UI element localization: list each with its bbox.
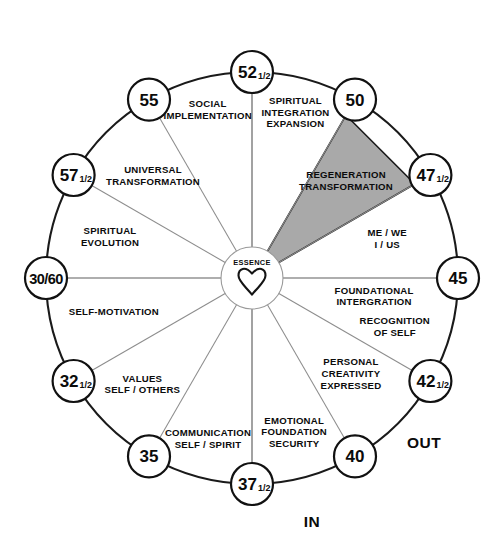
sector-label-line: EMOTIONAL <box>264 415 324 426</box>
sector-label-line: EVOLUTION <box>81 237 139 248</box>
sector-label-line: OF SELF <box>374 327 416 338</box>
sector-label-line: TRANSFORMATION <box>106 176 200 187</box>
node-number: 35 <box>140 447 159 466</box>
wheel-node-n45[interactable]: 45 <box>437 257 479 299</box>
sector-label-line: SECURITY <box>269 438 320 449</box>
spoke-line-n57h <box>88 184 226 264</box>
wheel-node-n37h[interactable]: 371/2 <box>231 463 273 505</box>
sector-label-s-foundational-integration: FOUNDATIONALINTERGRATION <box>335 285 414 308</box>
wheel-node-n35[interactable]: 35 <box>128 435 170 477</box>
wheel-node-n3060[interactable]: 30/60 <box>25 257 67 299</box>
sector-label-s-regeneration: REGENERATIONTRANSFORMATION <box>299 169 393 192</box>
sector-label-s-communication: COMMUNICATIONSELF / SPIRIT <box>165 427 251 450</box>
sector-label-line: FOUNDATIONAL <box>335 285 414 296</box>
wheel-node-n50[interactable]: 50 <box>334 79 376 121</box>
hub-circle[interactable] <box>221 247 283 309</box>
sector-label-line: CREATIVITY <box>322 368 381 379</box>
sector-label-s-spiritual-integration: SPIRITUALINTEGRATIONEXPANSION <box>261 95 329 129</box>
hub-label: ESSENCE <box>233 258 270 267</box>
spoke-line-n32h <box>88 293 226 373</box>
node-number: 40 <box>346 447 365 466</box>
sector-label-s-spiritual-evolution: SPIRITUALEVOLUTION <box>81 225 139 248</box>
wheel-canvas: ESSENCE REGENERATIONTRANSFORMATIONSPIRIT… <box>0 0 502 554</box>
node-number: 45 <box>449 269 468 288</box>
sector-label-line: REGENERATION <box>306 169 386 180</box>
sector-label-s-emotional-foundation: EMOTIONALFOUNDATIONSECURITY <box>261 415 327 449</box>
node-number: 55 <box>140 91 159 110</box>
sector-label-s-social-implementation: SOCIALIMPLEMENTATION <box>164 98 252 121</box>
wheel-node-n32h[interactable]: 321/2 <box>53 360 95 402</box>
node-fraction: 1/2 <box>436 174 449 184</box>
node-number: 32 <box>60 372 79 391</box>
sector-label-s-personal-creativity: PERSONALCREATIVITYEXPRESSED <box>321 356 382 390</box>
sector-label-line: RECOGNITION <box>360 315 430 326</box>
sector-label-line: INTERGRATION <box>336 296 411 307</box>
node-fraction: 1/2 <box>258 483 271 493</box>
node-number: 42 <box>416 372 435 391</box>
wheel-node-n55[interactable]: 55 <box>128 79 170 121</box>
sector-label-s-recognition-of-self: RECOGNITIONOF SELF <box>360 315 430 338</box>
node-number: 57 <box>60 166 79 185</box>
sector-label-s-me-we: ME / WEI / US <box>367 227 407 250</box>
node-fraction: 1/2 <box>436 380 449 390</box>
sector-label-line: SELF / OTHERS <box>105 384 181 395</box>
sector-label-line: VALUES <box>123 373 163 384</box>
sector-label-s-self-motivation: SELF-MOTIVATION <box>69 306 159 317</box>
sector-label-line: SOCIAL <box>189 98 227 109</box>
wheel-node-n52h[interactable]: 521/2 <box>231 51 273 93</box>
wheel-node-n47h[interactable]: 471/2 <box>409 154 451 196</box>
sector-label-line: TRANSFORMATION <box>299 181 393 192</box>
wheel-node-n57h[interactable]: 571/2 <box>53 154 95 196</box>
node-fraction: 1/2 <box>258 71 271 81</box>
highlight-sector-layer <box>252 115 415 278</box>
highlighted-sector-s-regeneration[interactable] <box>252 115 415 278</box>
sector-label-s-values: VALUESSELF / OTHERS <box>105 373 181 396</box>
node-number: 47 <box>416 166 435 185</box>
wheel-node-n40[interactable]: 40 <box>334 435 376 477</box>
axis-label-in: IN <box>304 513 321 530</box>
sector-label-line: SPIRITUAL <box>269 95 322 106</box>
sector-label-line: PERSONAL <box>323 356 378 367</box>
node-number: 50 <box>346 91 365 110</box>
sector-label-line: I / US <box>374 239 400 250</box>
node-number: 30/60 <box>29 271 63 287</box>
wheel-node-n42h[interactable]: 421/2 <box>409 360 451 402</box>
sector-label-line: INTEGRATION <box>261 107 329 118</box>
sector-label-line: EXPRESSED <box>321 380 382 391</box>
sector-label-line: SPIRITUAL <box>84 225 137 236</box>
sector-label-line: COMMUNICATION <box>165 427 251 438</box>
axis-label-out: OUT <box>407 434 441 451</box>
sector-label-s-universal-transformation: UNIVERSALTRANSFORMATION <box>106 164 200 187</box>
spoke-line-n35 <box>158 304 238 442</box>
sector-label-line: EXPANSION <box>266 118 324 129</box>
sector-label-line: IMPLEMENTATION <box>164 110 252 121</box>
node-fraction: 1/2 <box>80 380 93 390</box>
hub-layer: ESSENCE <box>221 247 283 309</box>
essence-wheel-diagram: ESSENCE REGENERATIONTRANSFORMATIONSPIRIT… <box>0 0 502 554</box>
sector-label-line: UNIVERSAL <box>124 164 182 175</box>
sector-label-line: FOUNDATION <box>261 426 327 437</box>
node-fraction: 1/2 <box>80 174 93 184</box>
sector-label-line: SELF-MOTIVATION <box>69 306 159 317</box>
sector-label-line: SELF / SPIRIT <box>175 439 242 450</box>
node-number: 37 <box>238 475 257 494</box>
node-number: 52 <box>238 63 257 82</box>
sector-label-line: ME / WE <box>367 227 407 238</box>
